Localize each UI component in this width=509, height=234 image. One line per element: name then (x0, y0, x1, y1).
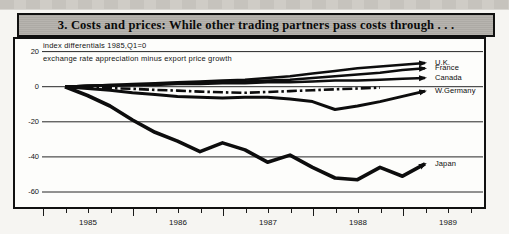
x-tick-quarter (111, 209, 112, 213)
series-label-canada: Canada (435, 74, 462, 82)
x-tick-quarter (448, 209, 449, 213)
series-label-france: France (435, 64, 459, 72)
x-tick-year (313, 209, 314, 216)
x-tick-quarter (66, 209, 67, 213)
x-tick-quarter (336, 209, 337, 213)
figure-title-bar: 3. Costs and prices: While other trading… (17, 13, 495, 37)
x-year-label-1987: 1987 (253, 218, 283, 227)
y-tick-label-0: 0 (15, 82, 39, 91)
scan-edge-strip (0, 0, 509, 10)
x-tick-quarter (268, 209, 269, 213)
x-year-label-1985: 1985 (73, 218, 103, 227)
x-tick-quarter (358, 209, 359, 213)
x-tick-quarter (156, 209, 157, 213)
x-tick-year (223, 209, 224, 216)
chart-canvas (15, 39, 484, 207)
x-tick-year (403, 209, 404, 216)
series-label-w-germany: W.Germany (435, 87, 476, 95)
x-tick-quarter (291, 209, 292, 213)
x-axis: 19851986198719881989 (13, 209, 486, 234)
series-label-japan: Japan (435, 160, 456, 168)
x-tick-quarter (88, 209, 89, 213)
x-year-label-1988: 1988 (343, 218, 373, 227)
x-tick-quarter (471, 209, 472, 213)
chart-frame: index differentials 1985,Q1=0 exchange r… (13, 37, 486, 209)
series-line-w-germany (65, 87, 425, 110)
x-tick-quarter (201, 209, 202, 213)
x-tick-quarter (381, 209, 382, 213)
x-tick-year (43, 209, 44, 216)
figure-title: 3. Costs and prices: While other trading… (58, 18, 454, 33)
y-tick-label--40: -40 (15, 152, 39, 161)
annotation-index-differentials: index differentials 1985,Q1=0 (43, 41, 146, 50)
scanned-page: 3. Costs and prices: While other trading… (0, 0, 509, 234)
x-tick-quarter (426, 209, 427, 213)
y-tick-label--60: -60 (15, 187, 39, 196)
x-year-label-1986: 1986 (163, 218, 193, 227)
x-tick-year (133, 209, 134, 216)
y-tick-label-20: 20 (15, 47, 39, 56)
x-tick-quarter (178, 209, 179, 213)
y-tick-label--20: -20 (15, 117, 39, 126)
series-line-japan (65, 87, 425, 180)
x-tick-quarter (246, 209, 247, 213)
annotation-exchange-rate: exchange rate appreciation minus export … (43, 54, 232, 63)
x-year-label-1989: 1989 (433, 218, 463, 227)
